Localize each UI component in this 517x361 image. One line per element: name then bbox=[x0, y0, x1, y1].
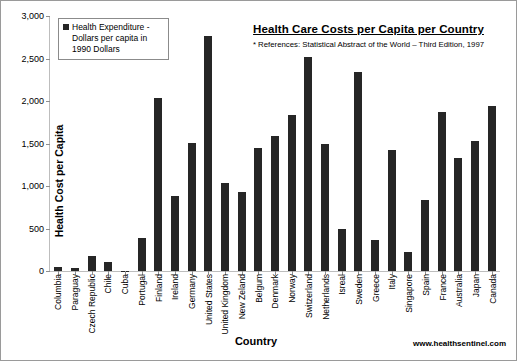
x-label-slot: Columbia bbox=[49, 274, 66, 346]
x-tick-label: Japan bbox=[471, 274, 481, 297]
bar-slot bbox=[467, 16, 484, 271]
chart-title: Health Care Costs per Capita per Country bbox=[236, 23, 501, 35]
bar[interactable] bbox=[371, 240, 379, 271]
bar-slot bbox=[283, 16, 300, 271]
x-label-slot: Cuba bbox=[116, 274, 133, 346]
source-url: www.healthsentinel.com bbox=[413, 339, 506, 348]
bar-slot bbox=[200, 16, 217, 271]
bar-slot bbox=[433, 16, 450, 271]
x-tick-label: Singapore bbox=[404, 274, 414, 313]
bar[interactable] bbox=[321, 144, 329, 272]
bar[interactable] bbox=[154, 98, 162, 271]
x-tick-label: Cuba bbox=[120, 274, 130, 294]
bar[interactable] bbox=[354, 72, 362, 271]
legend-label: Health Expenditure - Dollars per capita … bbox=[72, 22, 150, 55]
legend-swatch-icon bbox=[63, 24, 69, 30]
bar[interactable] bbox=[104, 262, 112, 271]
bar[interactable] bbox=[88, 256, 96, 271]
x-label-slot: Netherlands bbox=[316, 274, 333, 346]
x-label-slot: Finland bbox=[149, 274, 166, 346]
bar-slot bbox=[417, 16, 434, 271]
chart-container: Health Cost per Capita 3,0002,5002,0001,… bbox=[0, 0, 517, 361]
x-tick-label: United Kingdom bbox=[220, 274, 230, 334]
bar[interactable] bbox=[438, 112, 446, 271]
legend-label-line1: Health Expenditure - bbox=[72, 22, 150, 32]
x-tick-label: United States bbox=[204, 274, 214, 325]
bar-slot bbox=[400, 16, 417, 271]
x-label-slot: Sweden bbox=[350, 274, 367, 346]
x-tick-label: Belgum bbox=[254, 274, 264, 303]
bar[interactable] bbox=[454, 158, 462, 271]
y-tick-label: 500 bbox=[29, 224, 44, 234]
bar-slot bbox=[183, 16, 200, 271]
bar[interactable] bbox=[338, 229, 346, 272]
x-label-slot: Japan bbox=[467, 274, 484, 346]
bar[interactable] bbox=[488, 106, 496, 271]
x-label-slot: France bbox=[433, 274, 450, 346]
x-label-slot: Chile bbox=[99, 274, 116, 346]
x-tick-label: Ireland bbox=[170, 274, 180, 300]
x-tick-label: Denmark bbox=[270, 274, 280, 308]
x-tick-label: Czech Republic bbox=[87, 274, 97, 334]
bar[interactable] bbox=[404, 252, 412, 271]
bar[interactable] bbox=[388, 150, 396, 271]
y-tick-label: 0 bbox=[39, 266, 44, 276]
x-label-slot: Canada bbox=[483, 274, 500, 346]
bar-slot bbox=[167, 16, 184, 271]
y-tick-label: 1,000 bbox=[21, 181, 44, 191]
bar[interactable] bbox=[421, 200, 429, 271]
y-tick-label: 2,000 bbox=[21, 96, 44, 106]
x-tick-label: Finland bbox=[154, 274, 164, 302]
bar[interactable] bbox=[304, 57, 312, 271]
x-tick-label: New Zeland bbox=[237, 274, 247, 319]
x-tick-label: France bbox=[438, 274, 448, 300]
bar[interactable] bbox=[138, 238, 146, 271]
bar-slot bbox=[300, 16, 317, 271]
x-tick-label: Italy bbox=[387, 274, 397, 290]
bar[interactable] bbox=[204, 36, 212, 271]
bar[interactable] bbox=[171, 196, 179, 271]
x-tick-label: Canada bbox=[488, 274, 498, 304]
bar-slot bbox=[333, 16, 350, 271]
x-tick-label: Isreal bbox=[337, 274, 347, 295]
y-tick-label: 1,500 bbox=[21, 139, 44, 149]
bar[interactable] bbox=[188, 143, 196, 271]
x-tick-label: Columbia bbox=[53, 274, 63, 310]
x-label-slot: Spain bbox=[416, 274, 433, 346]
x-tick-label: Sweden bbox=[354, 274, 364, 305]
x-label-slot: Isreal bbox=[333, 274, 350, 346]
bar[interactable] bbox=[288, 115, 296, 271]
y-tick-label: 2,500 bbox=[21, 54, 44, 64]
legend-label-line2: Dollars per capita in bbox=[72, 33, 147, 43]
bar-slot bbox=[250, 16, 267, 271]
x-label-slot: Australia bbox=[450, 274, 467, 346]
bar[interactable] bbox=[471, 141, 479, 271]
x-label-slot: Singapore bbox=[400, 274, 417, 346]
bar-slot bbox=[450, 16, 467, 271]
x-tick-label: Greece bbox=[371, 274, 381, 302]
legend-label-line3: 1990 Dollars bbox=[72, 44, 120, 54]
bar[interactable] bbox=[271, 136, 279, 271]
x-tick-label: Australia bbox=[454, 274, 464, 307]
x-label-slot: Czech Republic bbox=[82, 274, 99, 346]
bar-slot bbox=[367, 16, 384, 271]
bar-slot bbox=[267, 16, 284, 271]
chart-legend: Health Expenditure - Dollars per capita … bbox=[58, 18, 169, 60]
x-label-slot: Italy bbox=[383, 274, 400, 346]
bar[interactable] bbox=[221, 183, 229, 271]
x-label-slot: Ireland bbox=[166, 274, 183, 346]
bar-slot bbox=[350, 16, 367, 271]
bar-slot bbox=[483, 16, 500, 271]
x-tick-label: Netherlands bbox=[321, 274, 331, 320]
x-axis-title: Country bbox=[196, 335, 316, 347]
bar-slot bbox=[217, 16, 234, 271]
x-tick-label: Portugal bbox=[137, 274, 147, 306]
x-tick-label: Norway bbox=[287, 274, 297, 303]
bar-slot bbox=[383, 16, 400, 271]
bar-slot bbox=[233, 16, 250, 271]
x-tick-label: Switzerland bbox=[304, 274, 314, 318]
bar[interactable] bbox=[238, 192, 246, 271]
x-label-slot: Portugal bbox=[133, 274, 150, 346]
bar[interactable] bbox=[254, 148, 262, 271]
bar-slot bbox=[317, 16, 334, 271]
